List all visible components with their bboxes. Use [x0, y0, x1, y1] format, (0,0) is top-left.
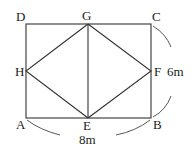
label-e: E	[83, 118, 91, 133]
label-f: F	[154, 64, 161, 79]
label-c: C	[152, 9, 161, 24]
label-a: A	[16, 117, 26, 132]
label-h: H	[15, 64, 24, 79]
label-b: B	[153, 117, 162, 132]
height-label: 6m	[167, 64, 184, 79]
label-g: G	[82, 8, 91, 23]
width-arc-left	[27, 120, 60, 135]
geometry-figure: D G C H F A E B 6m 8m	[0, 0, 192, 150]
height-arc-bottom	[153, 96, 171, 117]
height-arc-top	[153, 26, 171, 47]
width-label: 8m	[79, 132, 96, 147]
label-d: D	[16, 9, 25, 24]
width-arc-right	[116, 120, 150, 135]
